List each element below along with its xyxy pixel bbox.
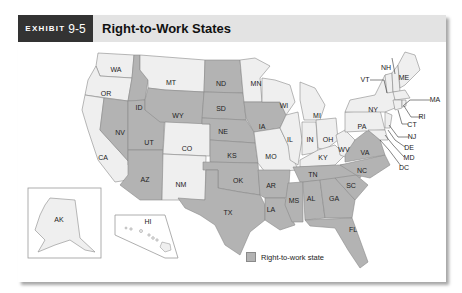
svg-text:IN: IN (307, 136, 314, 143)
svg-text:CA: CA (98, 154, 108, 161)
svg-text:AZ: AZ (141, 176, 151, 183)
state-nd (204, 60, 243, 93)
state-mt (140, 55, 205, 92)
legend-label: Right-to-work state (261, 253, 324, 262)
svg-text:OH: OH (323, 136, 334, 143)
svg-text:OR: OR (101, 90, 112, 97)
svg-text:RI: RI (419, 113, 426, 120)
us-map: WA OR CA ID NV UT AZ MT WY CO NM ND SD N… (0, 0, 462, 293)
legend-swatch-right-to-work (246, 252, 256, 262)
svg-text:FL: FL (349, 226, 357, 233)
svg-text:MA: MA (430, 96, 441, 103)
svg-text:IA: IA (259, 123, 266, 130)
svg-text:ID: ID (136, 104, 143, 111)
svg-text:UT: UT (144, 139, 154, 146)
state-me (398, 52, 420, 88)
svg-text:WI: WI (280, 102, 289, 109)
svg-text:KY: KY (318, 154, 328, 161)
svg-text:NY: NY (368, 106, 378, 113)
svg-text:HI: HI (145, 218, 152, 225)
svg-text:MN: MN (251, 80, 262, 87)
svg-text:MT: MT (166, 79, 177, 86)
svg-text:NE: NE (218, 128, 228, 135)
svg-text:CO: CO (182, 145, 193, 152)
svg-text:LA: LA (267, 206, 276, 213)
svg-text:MO: MO (265, 153, 277, 160)
state-nj (385, 112, 392, 128)
svg-text:KS: KS (227, 152, 237, 159)
svg-text:VT: VT (361, 76, 371, 83)
svg-text:PA: PA (358, 123, 367, 130)
svg-text:GA: GA (329, 195, 339, 202)
svg-text:NH: NH (381, 64, 391, 71)
svg-text:IL: IL (287, 136, 293, 143)
svg-text:SD: SD (216, 105, 226, 112)
svg-text:AL: AL (307, 195, 316, 202)
svg-text:DC: DC (399, 164, 409, 171)
svg-text:TX: TX (224, 209, 233, 216)
svg-text:SC: SC (346, 182, 356, 189)
svg-text:WV: WV (338, 146, 350, 153)
svg-text:ME: ME (399, 74, 410, 81)
svg-text:AK: AK (54, 216, 64, 223)
svg-text:NV: NV (115, 129, 125, 136)
state-nm (162, 154, 206, 200)
svg-text:WA: WA (110, 66, 121, 73)
state-ne (202, 118, 255, 143)
svg-text:TN: TN (308, 171, 317, 178)
state-ma (393, 90, 410, 100)
svg-text:NC: NC (357, 167, 367, 174)
svg-text:NJ: NJ (408, 133, 417, 140)
svg-text:VA: VA (361, 149, 370, 156)
svg-text:MD: MD (404, 154, 415, 161)
svg-text:MI: MI (313, 112, 321, 119)
svg-text:NM: NM (176, 181, 187, 188)
svg-text:OK: OK (233, 177, 243, 184)
state-ri (402, 100, 406, 107)
svg-text:MS: MS (289, 197, 300, 204)
svg-text:DE: DE (404, 144, 414, 151)
map-legend: Right-to-work state (246, 252, 324, 262)
svg-text:ND: ND (216, 80, 226, 87)
svg-text:AR: AR (266, 182, 276, 189)
svg-text:WY: WY (172, 112, 184, 119)
svg-text:CT: CT (407, 121, 417, 128)
